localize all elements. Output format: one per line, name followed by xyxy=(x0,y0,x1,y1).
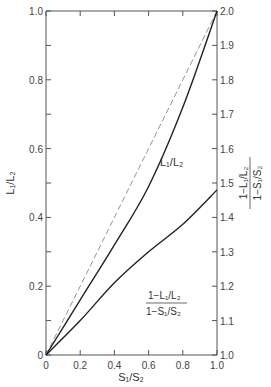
y-left-tick-label: 0.2 xyxy=(29,281,43,292)
y-right-tick-label: 1.7 xyxy=(220,109,234,120)
y-right-tick-label: 1.3 xyxy=(220,247,234,258)
y-right-axis-label: 1−L₁/L₂ 1−S₁/S₂ xyxy=(238,157,263,209)
y-right-tick-label: 1.2 xyxy=(220,281,234,292)
y-right-tick-label: 1.0 xyxy=(220,350,234,361)
series-line xyxy=(46,190,217,355)
y-right-label-denominator: 1−S₁/S₂ xyxy=(252,165,263,200)
chart: 00.20.40.60.81.0 00.20.40.60.81.0 1.01.1… xyxy=(0,0,271,387)
y-right-label-numerator: 1−L₁/L₂ xyxy=(238,167,249,200)
y-left-tick-label: 1.0 xyxy=(29,6,43,17)
x-tick-label: 0 xyxy=(43,360,49,371)
y-right-tick-label: 1.6 xyxy=(220,144,234,155)
curve-label-lower-denominator: 1−S₁/S₂ xyxy=(146,306,181,317)
y-right-tick-label: 1.1 xyxy=(220,316,234,327)
y-right-tick-label: 1.9 xyxy=(220,40,234,51)
y-left-axis-label: L₁/L₂ xyxy=(4,171,16,194)
y-right-tick-label: 1.8 xyxy=(220,75,234,86)
y-left-tick-label: 0.8 xyxy=(29,75,43,86)
series-lines xyxy=(46,11,217,355)
y-left-tick-label: 0 xyxy=(37,350,43,361)
x-axis-label: S₁/S₂ xyxy=(118,371,144,383)
x-tick-label: 0.6 xyxy=(142,360,156,371)
x-tick-label: 0.8 xyxy=(176,360,190,371)
y-right-ticks: 1.01.11.21.31.41.51.61.71.81.92.0 xyxy=(212,6,234,361)
y-right-tick-label: 1.5 xyxy=(220,178,234,189)
curve-label-lower: 1−L₁/L₂ 1−S₁/S₂ xyxy=(146,290,187,317)
y-left-ticks: 00.20.40.60.81.0 xyxy=(29,6,51,361)
series-line xyxy=(46,11,217,355)
y-right-tick-label: 2.0 xyxy=(220,6,234,17)
curve-label-upper: L₁/L₂ xyxy=(160,156,183,168)
x-tick-label: 0.2 xyxy=(73,360,87,371)
curve-label-lower-numerator: 1−L₁/L₂ xyxy=(148,290,181,301)
y-left-tick-label: 0.6 xyxy=(29,144,43,155)
y-right-tick-label: 1.4 xyxy=(220,212,234,223)
x-tick-label: 1.0 xyxy=(210,360,224,371)
y-left-tick-label: 0.4 xyxy=(29,212,43,223)
x-tick-label: 0.4 xyxy=(107,360,121,371)
